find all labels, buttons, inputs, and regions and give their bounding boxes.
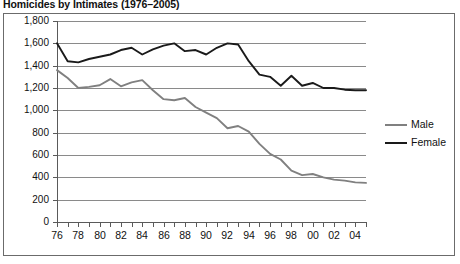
chart-legend: Male Female: [385, 117, 446, 153]
chart-figure: Homicides by Intimates (1976–2005) 1,800…: [0, 0, 460, 264]
legend-swatch-male: [385, 124, 407, 126]
legend-item-male: Male: [385, 117, 446, 132]
legend-label-female: Female: [411, 137, 446, 148]
legend-label-male: Male: [411, 119, 434, 130]
legend-item-female: Female: [385, 135, 446, 150]
legend-swatch-female: [385, 142, 407, 144]
